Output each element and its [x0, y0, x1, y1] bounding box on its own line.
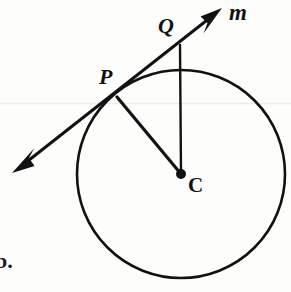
margin-item-marker: b. [0, 248, 13, 274]
segment-pc-radius [117, 97, 181, 174]
arrowhead-upper-right-icon [201, 8, 223, 34]
line-label-m: m [229, 1, 247, 24]
point-label-q: Q [158, 15, 174, 37]
center-point-dot-icon [176, 169, 186, 179]
point-label-p: P [99, 66, 112, 88]
arrowhead-lower-left-icon [12, 149, 35, 174]
point-label-c: C [188, 175, 203, 196]
geometry-figure: P Q C m b. [0, 0, 291, 292]
tangent-line-m [24, 17, 211, 164]
segment-qc [180, 45, 181, 174]
geometry-canvas [0, 0, 291, 292]
